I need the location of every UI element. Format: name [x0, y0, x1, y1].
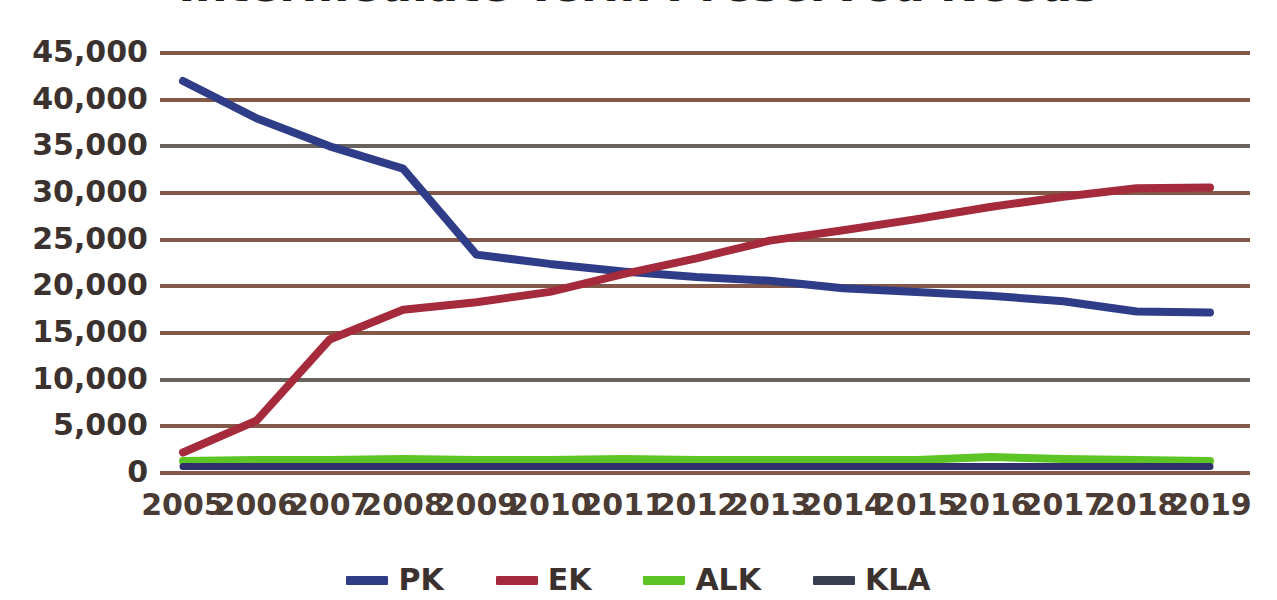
series-line-ek	[183, 187, 1210, 452]
x-tick-label: 2019	[1165, 488, 1255, 522]
y-tick-label: 20,000	[0, 270, 148, 300]
legend-swatch-icon	[643, 576, 685, 585]
series-lines	[160, 30, 1250, 480]
legend-item-alk[interactable]: ALK	[643, 564, 761, 596]
chart-legend: PKEKALKKLA	[0, 560, 1277, 600]
legend-item-kla[interactable]: KLA	[813, 564, 931, 596]
legend-item-ek[interactable]: EK	[496, 564, 592, 596]
legend-swatch-icon	[813, 576, 855, 585]
y-tick-label: 30,000	[0, 177, 148, 207]
x-axis: 2005200620072008200920102011201220132014…	[0, 488, 1277, 532]
legend-label: EK	[548, 564, 592, 596]
y-tick-label: 15,000	[0, 317, 148, 347]
legend-label: PK	[398, 564, 443, 596]
y-tick-label: 25,000	[0, 224, 148, 254]
legend-item-pk[interactable]: PK	[346, 564, 443, 596]
y-tick-label: 45,000	[0, 37, 148, 67]
y-tick-label: 35,000	[0, 130, 148, 160]
plot-area	[160, 30, 1250, 480]
legend-label: KLA	[865, 564, 931, 596]
y-tick-label: 5,000	[0, 410, 148, 440]
y-tick-label: 40,000	[0, 84, 148, 114]
chart-title: Intermediate Term Preserved Needs	[0, 0, 1277, 12]
legend-label: ALK	[695, 564, 761, 596]
series-line-alk	[183, 457, 1210, 461]
chart-screenshot: Intermediate Term Preserved Needs 45,000…	[0, 0, 1277, 600]
y-tick-label: 0	[0, 457, 148, 487]
legend-swatch-icon	[496, 576, 538, 585]
y-tick-label: 10,000	[0, 364, 148, 394]
legend-swatch-icon	[346, 576, 388, 585]
